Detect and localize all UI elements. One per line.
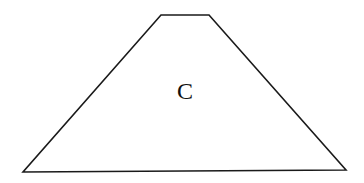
trapezoid-label: C bbox=[177, 78, 193, 104]
diagram-canvas: C bbox=[0, 0, 364, 183]
